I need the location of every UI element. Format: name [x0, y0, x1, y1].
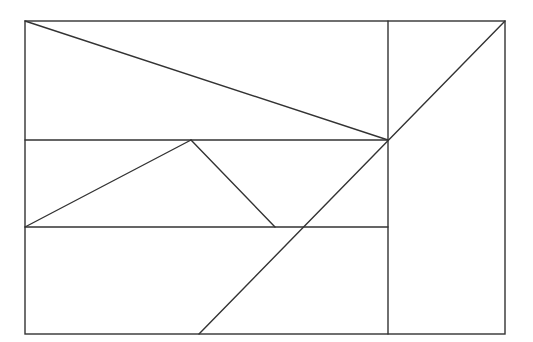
diagonal-top-left: [25, 21, 388, 140]
segments-group: [25, 21, 505, 334]
triangle-right-edge: [191, 140, 275, 227]
diagram-canvas: [0, 0, 533, 342]
outer-rectangle: [25, 21, 505, 334]
diagonal-long: [199, 21, 505, 334]
triangle-left-edge: [25, 140, 191, 227]
